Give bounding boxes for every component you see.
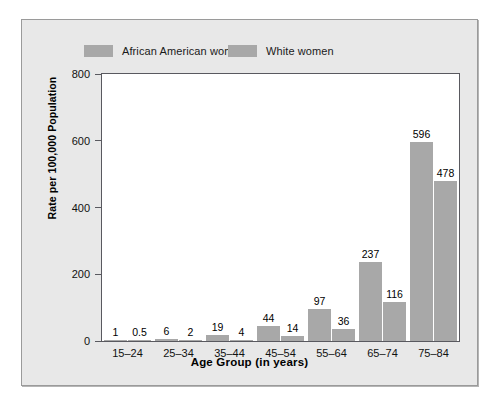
bar-white-women[interactable] <box>434 181 457 341</box>
bar-group: 4414 <box>257 74 304 341</box>
x-axis-title: Age Group (in years) <box>22 356 477 368</box>
bar-group: 596478 <box>410 74 457 341</box>
y-axis-tick <box>95 74 102 75</box>
bar-white-women[interactable] <box>281 336 304 341</box>
bar-group: 62 <box>155 74 202 341</box>
legend-label-white-women: White women <box>266 45 334 57</box>
bar-value-label: 36 <box>324 315 364 327</box>
legend-swatch-african-american-women <box>84 45 113 57</box>
bar-white-women[interactable] <box>128 340 151 342</box>
bar-value-label: 116 <box>375 288 415 300</box>
bar-african-american-women[interactable] <box>359 262 382 341</box>
bar-group: 10.5 <box>104 74 151 341</box>
bar-value-label: 478 <box>426 167 466 179</box>
y-axis-tick <box>95 140 102 141</box>
y-axis-tick <box>95 274 102 275</box>
bar-african-american-women[interactable] <box>104 340 127 342</box>
y-axis-tick-label: 0 <box>84 335 90 347</box>
y-axis-tick-label: 600 <box>72 135 90 147</box>
bar-african-american-women[interactable] <box>155 339 178 341</box>
y-axis-tick <box>95 207 102 208</box>
y-axis-tick-label: 400 <box>72 202 90 214</box>
chart-panel: African American women White women Rate … <box>21 19 478 386</box>
plot-area: 0200400600800 10.56219444149736237116596… <box>101 73 460 342</box>
bar-group: 9736 <box>308 74 355 341</box>
bar-white-women[interactable] <box>230 340 253 342</box>
y-axis-tick <box>95 341 102 342</box>
legend-swatch-white-women <box>228 45 257 57</box>
bar-value-label: 14 <box>273 322 313 334</box>
chart-legend: African American women White women <box>22 40 477 62</box>
bar-value-label: 97 <box>300 295 340 307</box>
y-axis-tick-label: 800 <box>72 68 90 80</box>
bar-group: 237116 <box>359 74 406 341</box>
y-axis-title: Rate per 100,000 Population <box>46 63 58 233</box>
bar-value-label: 596 <box>402 128 442 140</box>
bars-container: 10.56219444149736237116596478 <box>102 74 459 341</box>
bar-white-women[interactable] <box>383 302 406 341</box>
bar-group: 194 <box>206 74 253 341</box>
bar-value-label: 4 <box>222 326 262 338</box>
y-axis-tick-label: 200 <box>72 268 90 280</box>
bar-value-label: 237 <box>351 248 391 260</box>
legend-item-african-american-women: African American women <box>84 43 246 59</box>
bar-white-women[interactable] <box>332 329 355 341</box>
legend-item-white-women: White women <box>228 43 334 59</box>
bar-white-women[interactable] <box>179 340 202 342</box>
